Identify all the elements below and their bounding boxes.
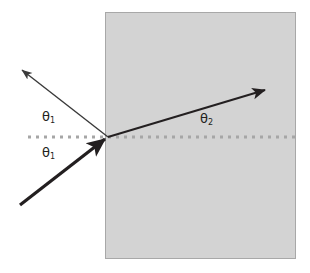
angle-label-theta1-incident: θ1 — [42, 146, 55, 159]
incident-ray — [20, 139, 105, 205]
theta-subscript: 2 — [208, 118, 213, 127]
angle-label-theta2-refracted: θ2 — [200, 112, 213, 125]
refraction-diagram: θ1 θ1 θ2 — [0, 0, 310, 273]
theta-symbol: θ — [200, 111, 208, 126]
reflected-ray — [22, 70, 108, 137]
theta-subscript: 1 — [50, 152, 55, 161]
angle-label-theta1-reflected: θ1 — [42, 110, 55, 123]
diagram-canvas — [0, 0, 310, 273]
theta-symbol: θ — [42, 109, 50, 124]
theta-symbol: θ — [42, 145, 50, 160]
theta-subscript: 1 — [50, 116, 55, 125]
